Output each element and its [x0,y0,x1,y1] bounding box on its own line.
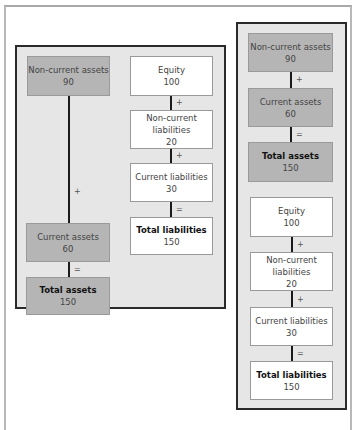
connector-line [170,202,172,217]
box-label: Non-current assets [28,64,108,76]
plus-operator: + [297,241,304,249]
box-value: 20 [166,136,177,148]
equals-operator: = [74,266,81,274]
box-value: 30 [286,327,297,339]
total-liabilities-box: Total liabilities 150 [250,361,333,400]
box-label: Total liabilities [136,224,206,236]
box-label: Non-current liabilities [131,112,212,136]
box-label: Equity [278,205,305,217]
current-assets-box: Current assets 60 [26,223,110,262]
non-current-assets-box: Non-current assets 90 [27,56,110,96]
box-label: Equity [158,64,185,76]
connector-line [68,262,70,277]
equity-box: Equity 100 [250,197,333,237]
box-value: 20 [286,278,297,290]
equity-box: Equity 100 [130,56,213,96]
connector-line [290,127,292,142]
box-label: Total assets [40,284,97,296]
connector-line [170,96,172,110]
box-value: 150 [60,296,76,308]
plus-operator: + [74,188,81,196]
non-current-assets-box: Non-current assets 90 [248,33,333,72]
box-value: 60 [63,243,74,255]
plus-operator: + [297,296,304,304]
box-value: 100 [283,217,299,229]
total-liabilities-box: Total liabilities 150 [130,217,213,255]
box-value: 90 [63,76,74,88]
box-value: 90 [285,53,296,65]
connector-line [291,237,293,252]
plus-operator: + [296,76,303,84]
box-label: Total liabilities [256,369,326,381]
box-label: Current liabilities [255,315,327,327]
non-current-liabilities-box: Non-current liabilities 20 [130,110,213,149]
non-current-liabilities-box: Non-current liabilities 20 [250,252,333,291]
equals-operator: = [176,206,183,214]
connector-line [68,96,70,224]
connector-line [290,72,292,88]
box-label: Total assets [262,150,319,162]
current-assets-box: Current assets 60 [248,88,333,127]
plus-operator: + [176,152,183,160]
box-value: 30 [166,183,177,195]
connector-line [291,346,293,361]
box-label: Current liabilities [135,171,207,183]
connector-line [170,149,172,163]
plus-operator: + [176,99,183,107]
box-value: 150 [283,381,299,393]
box-label: Current assets [260,96,322,108]
box-label: Current assets [37,231,99,243]
current-liabilities-box: Current liabilities 30 [250,307,333,346]
total-assets-box: Total assets 150 [26,277,110,315]
box-label: Non-current liabilities [251,254,332,278]
box-value: 150 [282,162,298,174]
box-value: 100 [163,76,179,88]
box-value: 60 [285,108,296,120]
connector-line [291,291,293,307]
box-label: Non-current assets [250,41,330,53]
current-liabilities-box: Current liabilities 30 [130,163,213,202]
total-assets-box: Total assets 150 [248,142,333,182]
equals-operator: = [297,350,304,358]
box-value: 150 [163,236,179,248]
equals-operator: = [296,131,303,139]
